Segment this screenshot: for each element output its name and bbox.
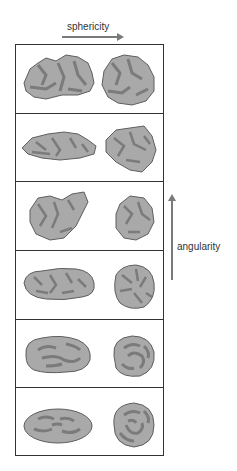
row-very-angular [16, 45, 163, 114]
angularity-label: angularity [177, 241, 220, 252]
row-subangular [16, 182, 163, 251]
grain-low-sphericity [24, 55, 94, 99]
grain-low-sphericity [24, 409, 92, 443]
angularity-arrow-icon [171, 200, 173, 280]
sphericity-label: sphericity [67, 21, 109, 32]
sphericity-arrow-icon [62, 36, 118, 38]
grain-low-sphericity [30, 192, 88, 240]
row-angular [16, 114, 163, 183]
row-well-rounded [16, 389, 163, 458]
grain-high-sphericity [115, 265, 155, 308]
grain-high-sphericity [106, 126, 156, 172]
grain-low-sphericity [24, 268, 94, 299]
grain-low-sphericity [22, 132, 96, 160]
grain-high-sphericity [102, 55, 154, 105]
row-subrounded [16, 251, 163, 320]
grain-high-sphericity [116, 196, 154, 240]
row-rounded [16, 320, 163, 389]
grain-low-sphericity [26, 336, 90, 372]
grain-high-sphericity [114, 336, 154, 376]
grain-shape-grid [15, 44, 164, 456]
grain-high-sphericity [114, 403, 154, 447]
